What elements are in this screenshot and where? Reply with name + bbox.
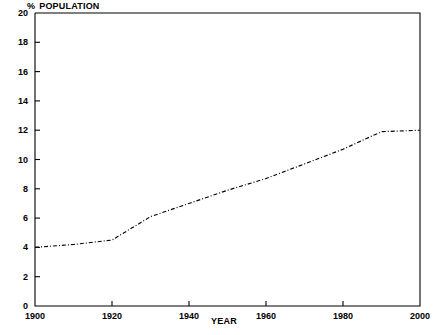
y-tick-marks [35, 42, 40, 276]
x-tick-label: 1960 [246, 311, 286, 321]
population-line-chart: %POPULATION YEAR 02468101214161820 19001… [0, 0, 448, 335]
y-tick-label: 10 [4, 155, 28, 165]
x-tick-label: 1900 [15, 311, 55, 321]
y-tick-label: 8 [4, 184, 28, 194]
x-tick-label: 2000 [400, 311, 440, 321]
x-tick-label: 1920 [92, 311, 132, 321]
x-tick-label: 1980 [323, 311, 363, 321]
x-tick-marks [112, 301, 343, 306]
axes-frame [35, 13, 420, 306]
y-tick-label: 18 [4, 37, 28, 47]
x-tick-label: 1940 [169, 311, 209, 321]
y-tick-label: 14 [4, 96, 28, 106]
y-tick-label: 0 [4, 301, 28, 311]
y-tick-label: 12 [4, 125, 28, 135]
y-tick-label: 6 [4, 213, 28, 223]
plot-frame [35, 13, 420, 306]
y-tick-label: 16 [4, 67, 28, 77]
data-series-line [35, 130, 420, 247]
y-tick-label: 2 [4, 272, 28, 282]
y-tick-label: 4 [4, 242, 28, 252]
y-tick-label: 20 [4, 8, 28, 18]
plot-area [0, 0, 448, 335]
